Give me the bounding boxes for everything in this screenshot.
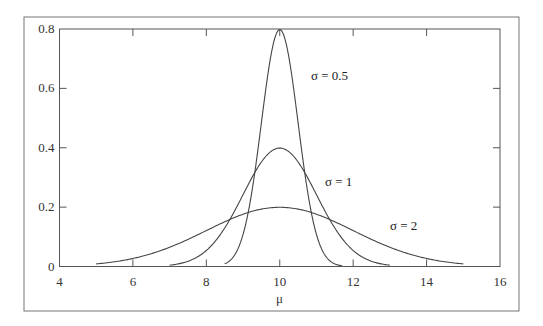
y-tick-label: 0 xyxy=(48,259,55,274)
x-tick-label: 10 xyxy=(273,274,286,289)
normal-distribution-chart: 4681012141600.20.40.60.8 σ = 0.5σ = 1σ =… xyxy=(0,0,543,326)
x-tick-label: 16 xyxy=(494,274,508,289)
y-tick-label: 0.6 xyxy=(38,80,55,95)
curve-1 xyxy=(170,148,390,265)
curve-label: σ = 1 xyxy=(325,174,352,189)
x-axis-label: μ xyxy=(276,291,283,306)
curve-0.5 xyxy=(225,30,342,266)
y-tick-label: 0.8 xyxy=(38,21,54,36)
x-tick-label: 8 xyxy=(203,274,210,289)
curve-labels: σ = 0.5σ = 1σ = 2 xyxy=(311,68,417,233)
curve-label: σ = 2 xyxy=(390,218,417,233)
x-tick-label: 6 xyxy=(130,274,137,289)
x-tick-label: 12 xyxy=(347,274,360,289)
x-tick-label: 4 xyxy=(56,274,63,289)
axis-ticks: 4681012141600.20.40.60.8 xyxy=(38,21,507,289)
x-tick-label: 14 xyxy=(420,274,434,289)
y-tick-label: 0.4 xyxy=(38,140,55,155)
y-tick-label: 0.2 xyxy=(38,199,54,214)
curve-label: σ = 0.5 xyxy=(311,68,348,83)
curve-2 xyxy=(96,207,463,264)
